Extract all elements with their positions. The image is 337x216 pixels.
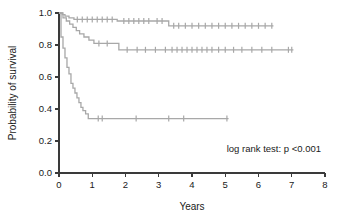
- survival-chart-figure: 0.00.20.40.60.81.0012345678YearsProbabil…: [0, 0, 337, 216]
- x-tick-label: 8: [322, 179, 327, 190]
- x-tick-label: 6: [256, 179, 261, 190]
- survival-curve-2: [59, 13, 293, 50]
- x-tick-label: 5: [223, 179, 228, 190]
- y-tick-label: 0.2: [39, 135, 52, 146]
- y-tick-label: 1.0: [39, 7, 52, 18]
- survival-plot: 0.00.20.40.60.81.0012345678YearsProbabil…: [0, 0, 337, 216]
- y-tick-label: 0.8: [39, 39, 52, 50]
- x-tick-label: 1: [90, 179, 95, 190]
- y-tick-label: 0.6: [39, 71, 52, 82]
- x-axis-title: Years: [179, 201, 204, 212]
- y-tick-label: 0.0: [39, 167, 52, 178]
- x-tick-label: 2: [123, 179, 128, 190]
- x-tick-label: 3: [156, 179, 161, 190]
- log-rank-annotation: log rank test: p <0.001: [227, 143, 321, 154]
- survival-curve-3: [59, 13, 229, 119]
- y-axis-title: Probability of survival: [7, 46, 18, 140]
- x-tick-label: 7: [289, 179, 294, 190]
- survival-curve-1: [59, 13, 273, 26]
- x-tick-label: 0: [56, 179, 61, 190]
- x-tick-label: 4: [189, 179, 194, 190]
- y-tick-label: 0.4: [39, 103, 52, 114]
